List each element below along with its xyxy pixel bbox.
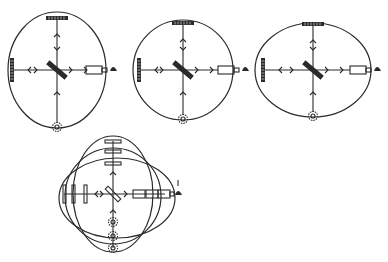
telescope-body [86,66,102,74]
light-source-icon [309,112,318,121]
detector-eye-shape [175,191,182,195]
detector-eye-shape [374,67,381,71]
detector-eye-icon [374,67,381,71]
panel-3-interferometer [255,22,381,121]
panel-4-overlay-interferometer [59,136,182,253]
telescope-eyepiece [366,68,371,72]
detector-eye-icon [175,191,182,195]
detector-eye-shape [242,67,249,71]
telescope-body [350,66,366,74]
light-source-icon [53,123,62,132]
telescope-eyepiece [170,192,174,196]
light-source-icon [179,115,188,124]
telescope-eyepiece [234,68,239,72]
panel-2-interferometer [133,20,249,124]
diagram-canvas [0,0,388,262]
telescope-body [218,66,234,74]
panel-1-interferometer [8,12,117,132]
detector-eye-shape [110,67,117,71]
light-source-rays [309,112,318,121]
light-source-rays [179,115,188,124]
detector-eye-icon [242,67,249,71]
light-source-rays [53,123,62,132]
detector-eye-icon [110,67,117,71]
